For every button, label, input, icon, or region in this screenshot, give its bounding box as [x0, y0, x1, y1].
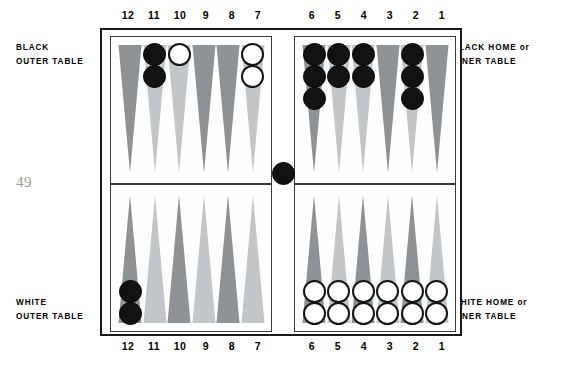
point-number-5: 5 [330, 9, 346, 21]
point-number-11: 11 [146, 340, 162, 352]
point-number-1: 1 [434, 340, 450, 352]
point-number-8: 8 [224, 9, 240, 21]
label-line: OUTER TABLE [16, 55, 84, 69]
label-line: WHITE [16, 296, 84, 310]
board-playing-surface [110, 36, 456, 332]
label-white-outer-table: WHITE OUTER TABLE [16, 296, 84, 324]
white-checker-point-6[interactable] [303, 280, 326, 303]
white-checker-point-7[interactable] [241, 43, 264, 66]
point-number-3: 3 [382, 340, 398, 352]
point-number-1: 1 [434, 9, 450, 21]
black-checker-point-2[interactable] [401, 87, 424, 110]
label-black-home-inner-table: BLACK HOME or INNER TABLE [452, 41, 530, 69]
black-checker-point-6[interactable] [303, 43, 326, 66]
label-line: INNER TABLE [452, 55, 530, 69]
white-checker-point-1[interactable] [425, 280, 448, 303]
black-checker-point-4[interactable] [352, 43, 375, 66]
white-checker-point-2[interactable] [401, 302, 424, 325]
point-number-5: 5 [330, 340, 346, 352]
point-number-6: 6 [304, 9, 320, 21]
black-checker-point-12[interactable] [119, 302, 142, 325]
point-number-4: 4 [356, 9, 372, 21]
white-checker-point-3[interactable] [376, 280, 399, 303]
point-number-12: 12 [120, 9, 136, 21]
white-checker-point-4[interactable] [352, 280, 375, 303]
point-numbers-bottom: 121110987654321 [100, 340, 462, 356]
point-8-bottom-left[interactable] [216, 195, 240, 323]
point-number-6: 6 [304, 340, 320, 352]
page-number: 49 [16, 174, 32, 191]
white-checker-point-4[interactable] [352, 302, 375, 325]
black-checker-point-11[interactable] [143, 65, 166, 88]
black-checker-point-12[interactable] [119, 280, 142, 303]
point-number-11: 11 [146, 9, 162, 21]
point-1-top-right[interactable] [425, 45, 449, 173]
white-checker-point-10[interactable] [168, 43, 191, 66]
backgammon-board-frame [100, 28, 462, 336]
black-checker-point-6[interactable] [303, 87, 326, 110]
label-line: BLACK HOME or [452, 41, 530, 55]
black-checker-point-5[interactable] [327, 65, 350, 88]
point-7-bottom-left[interactable] [241, 195, 265, 323]
black-checker-point-11[interactable] [143, 43, 166, 66]
point-number-7: 7 [250, 9, 266, 21]
white-checker-point-3[interactable] [376, 302, 399, 325]
white-checker-point-5[interactable] [327, 280, 350, 303]
point-number-8: 8 [224, 340, 240, 352]
point-9-top-left[interactable] [192, 45, 216, 173]
point-number-3: 3 [382, 9, 398, 21]
black-checker-point-4[interactable] [352, 65, 375, 88]
label-line: BLACK [16, 41, 84, 55]
point-number-12: 12 [120, 340, 136, 352]
point-9-bottom-left[interactable] [192, 195, 216, 323]
point-number-9: 9 [198, 340, 214, 352]
black-checker-point-2[interactable] [401, 43, 424, 66]
point-number-4: 4 [356, 340, 372, 352]
white-checker-point-2[interactable] [401, 280, 424, 303]
white-checker-point-6[interactable] [303, 302, 326, 325]
white-checker-point-1[interactable] [425, 302, 448, 325]
point-number-2: 2 [408, 9, 424, 21]
point-8-top-left[interactable] [216, 45, 240, 173]
black-checker-point-6[interactable] [303, 65, 326, 88]
point-12-top-left[interactable] [118, 45, 142, 173]
point-11-bottom-left[interactable] [143, 195, 167, 323]
point-3-top-right[interactable] [376, 45, 400, 173]
label-line: INNER TABLE [452, 310, 527, 324]
black-checker-point-5[interactable] [327, 43, 350, 66]
label-black-outer-table: BLACK OUTER TABLE [16, 41, 84, 69]
point-number-10: 10 [172, 9, 188, 21]
label-white-home-inner-table: WHITE HOME or INNER TABLE [452, 296, 527, 324]
white-checker-point-7[interactable] [241, 65, 264, 88]
point-number-9: 9 [198, 9, 214, 21]
black-checker-point-2[interactable] [401, 65, 424, 88]
point-number-10: 10 [172, 340, 188, 352]
point-number-7: 7 [250, 340, 266, 352]
black-checker-on-bar[interactable] [272, 162, 295, 185]
point-numbers-top: 121110987654321 [100, 9, 462, 25]
point-10-bottom-left[interactable] [167, 195, 191, 323]
label-line: OUTER TABLE [16, 310, 84, 324]
point-number-2: 2 [408, 340, 424, 352]
white-checker-point-5[interactable] [327, 302, 350, 325]
label-line: WHITE HOME or [452, 296, 527, 310]
